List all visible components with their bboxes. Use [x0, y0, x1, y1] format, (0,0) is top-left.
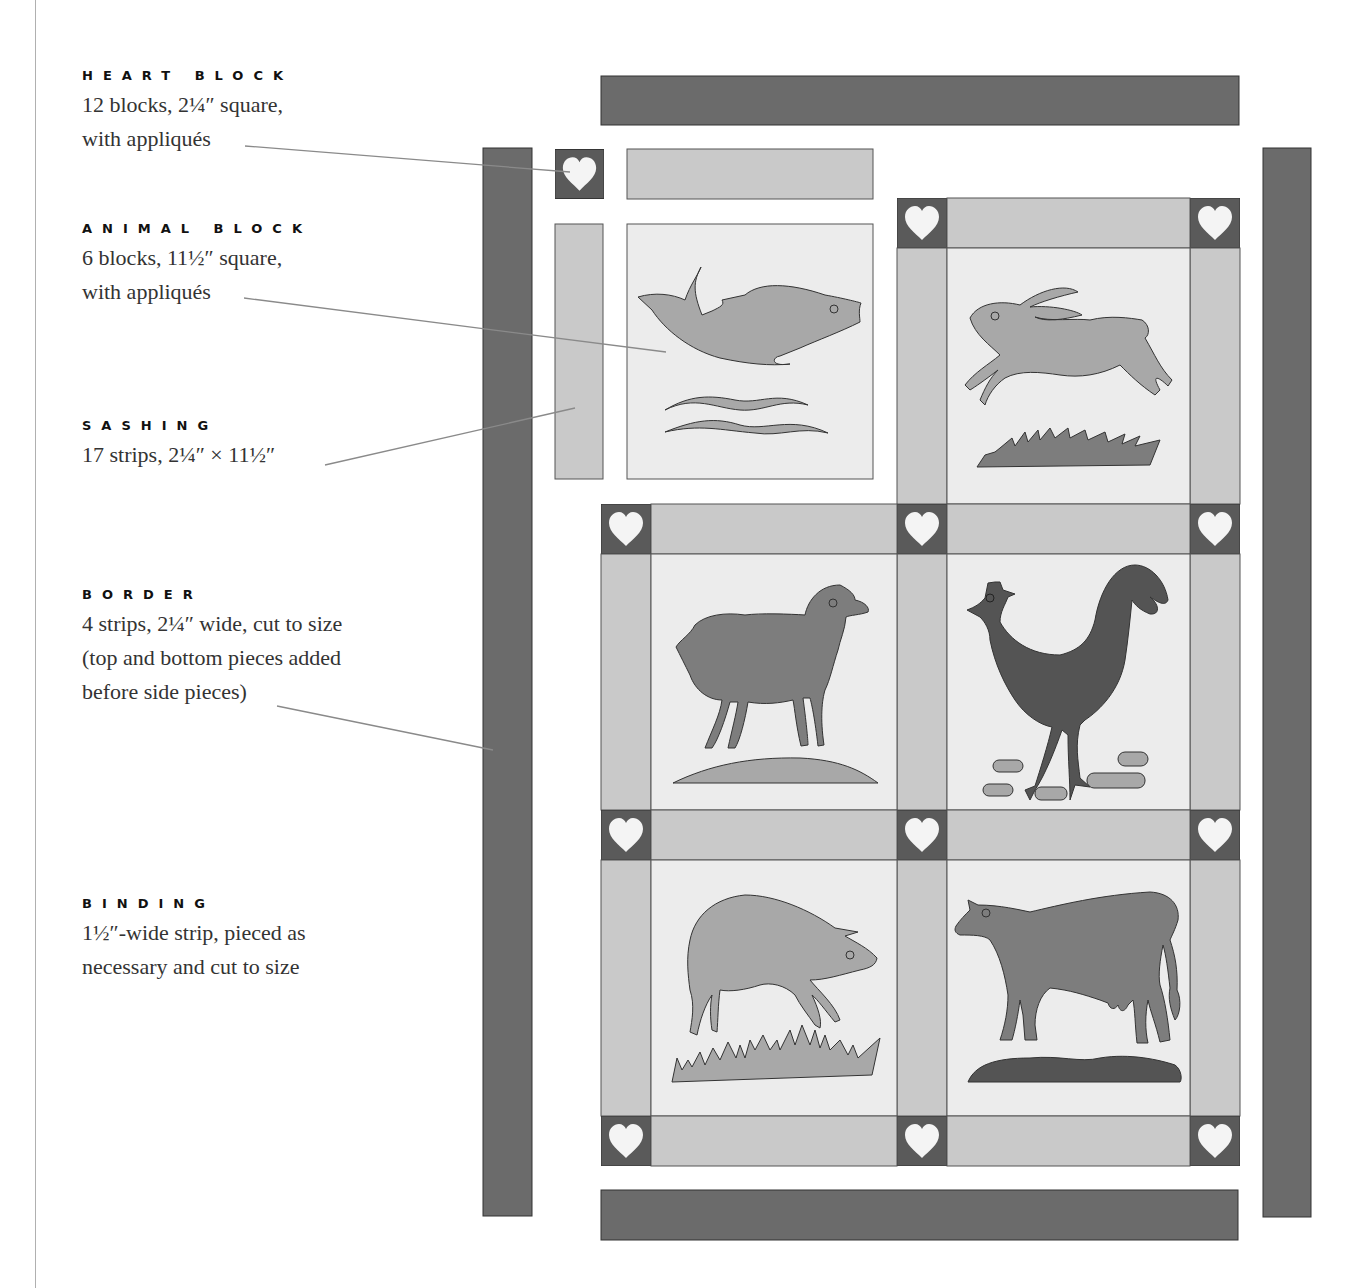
border-right: [1263, 148, 1311, 1217]
sashing-horizontal-sample: [627, 149, 873, 199]
border-left: [483, 148, 532, 1216]
quilt-assembly-diagram: [0, 0, 1351, 1288]
border-top: [601, 76, 1239, 125]
border-bottom: [601, 1190, 1238, 1240]
leader-line-border: [277, 706, 493, 750]
heart-block-sample: [555, 150, 604, 199]
sashing-vertical-sample: [555, 224, 603, 479]
quilt-unit-rabbit: [897, 198, 1240, 504]
leader-line-sashing: [325, 408, 575, 465]
